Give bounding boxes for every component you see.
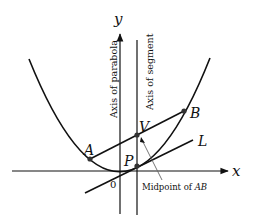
midpoint-pointer [142, 140, 162, 180]
point-b [181, 108, 186, 113]
point-b-label: B [189, 105, 200, 121]
midpoint-annotation: Midpoint of AB [142, 182, 207, 192]
x-axis-label: x [232, 162, 241, 180]
point-a-label: A [82, 142, 94, 158]
y-axis-label: y [113, 10, 123, 28]
parabola-axis-label: Axis of parabola [108, 40, 119, 119]
parabola-diagram: y x 0 Axis of parabola Axis of segment A… [0, 0, 255, 221]
origin-label: 0 [110, 179, 116, 190]
midpoint-annotation-prefix: Midpoint of [142, 182, 195, 192]
pointer-arrowhead-icon [140, 137, 145, 143]
midpoint-annotation-segment: AB [194, 182, 207, 192]
point-p [134, 163, 139, 168]
segment-axis-label: Axis of segment [144, 33, 155, 111]
point-p-label: P [123, 153, 134, 169]
point-v-label: V [139, 119, 151, 135]
line-l-label: L [197, 133, 207, 149]
